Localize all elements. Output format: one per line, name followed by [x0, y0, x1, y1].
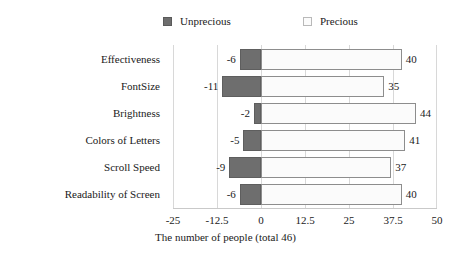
- chart-row: Readability of Screen-640: [0, 184, 451, 205]
- chart-row: Colors of Letters-541: [0, 130, 451, 151]
- value-label-unprecious: -6: [178, 49, 236, 70]
- chart-row: Effectiveness-640: [0, 49, 451, 70]
- x-axis-title: The number of people (total 46): [0, 231, 451, 243]
- x-tick-label: 50: [407, 212, 451, 228]
- category-label-readability-of-screen: Readability of Screen: [0, 184, 160, 205]
- category-label-scroll-speed: Scroll Speed: [0, 157, 160, 178]
- bar-unprecious: [243, 130, 261, 151]
- category-label-fontsize: FontSize: [0, 76, 160, 97]
- value-label-precious: 37: [395, 157, 406, 178]
- bar-unprecious: [229, 157, 261, 178]
- value-label-precious: 41: [409, 130, 420, 151]
- bar-precious: [261, 49, 402, 70]
- legend-label-precious: Precious: [320, 16, 358, 27]
- legend-item-unprecious: Unprecious: [163, 13, 231, 29]
- value-label-precious: 40: [406, 49, 417, 70]
- x-axis-line: [173, 208, 437, 209]
- category-label-brightness: Brightness: [0, 103, 160, 124]
- value-label-precious: 35: [388, 76, 399, 97]
- legend-swatch-unprecious-icon: [163, 17, 172, 26]
- category-label-effectiveness: Effectiveness: [0, 49, 160, 70]
- category-label-colors-of-letters: Colors of Letters: [0, 130, 160, 151]
- legend-label-unprecious: Unprecious: [180, 16, 231, 27]
- chart-row: Scroll Speed-937: [0, 157, 451, 178]
- bar-unprecious: [222, 76, 261, 97]
- chart-legend: Unprecious Precious: [0, 13, 451, 29]
- bar-unprecious: [254, 103, 261, 124]
- value-label-precious: 44: [420, 103, 431, 124]
- chart-row: FontSize-1135: [0, 76, 451, 97]
- value-label-unprecious: -11: [160, 76, 218, 97]
- legend-swatch-precious-icon: [303, 17, 312, 26]
- bar-unprecious: [240, 184, 261, 205]
- bar-precious: [261, 130, 405, 151]
- bar-precious: [261, 157, 391, 178]
- x-axis-ticks: -25-12.5012.52537.550: [0, 212, 451, 228]
- value-label-unprecious: -2: [192, 103, 250, 124]
- bar-unprecious: [240, 49, 261, 70]
- bar-precious: [261, 103, 416, 124]
- value-label-precious: 40: [406, 184, 417, 205]
- legend-item-precious: Precious: [303, 13, 358, 29]
- value-label-unprecious: -5: [181, 130, 239, 151]
- value-label-unprecious: -6: [178, 184, 236, 205]
- value-label-unprecious: -9: [167, 157, 225, 178]
- bar-precious: [261, 76, 384, 97]
- bar-precious: [261, 184, 402, 205]
- chart-row: Brightness-244: [0, 103, 451, 124]
